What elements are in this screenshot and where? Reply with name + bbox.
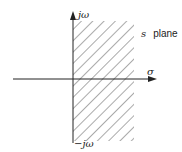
plane-word: plane <box>153 28 178 39</box>
s-variable: s <box>141 28 146 39</box>
jw-axis-label: jω <box>76 9 89 20</box>
jw-arrow-icon <box>70 11 76 20</box>
s-plane-diagram: jω −jω σ s plane <box>0 0 182 152</box>
sigma-axis-label: σ <box>147 66 155 77</box>
neg-jw-axis-label: −jω <box>74 138 94 149</box>
hatched-right-half-plane <box>73 21 134 141</box>
s-plane-label: s plane <box>141 23 178 40</box>
